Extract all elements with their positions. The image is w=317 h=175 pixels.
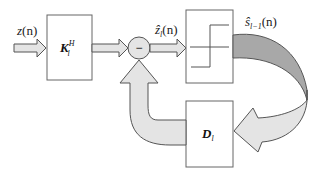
feedback-arrow [120, 60, 186, 145]
sum-to-quantizer-arrow [150, 39, 186, 57]
diagram-canvas: z(n) KHl − ẑl(n) ŝl−1(n) Dl [0, 0, 317, 175]
decision-signal-label: ŝl−1(n) [245, 14, 277, 31]
minus-sign: − [135, 41, 142, 55]
estimate-signal-label: ẑl(n) [154, 22, 177, 39]
k-to-sum-arrow [92, 39, 128, 57]
input-signal-label: z(n) [16, 23, 37, 38]
input-arrow [14, 39, 46, 57]
to-d-arrow [234, 90, 307, 152]
decision-feedback-band [233, 34, 307, 100]
